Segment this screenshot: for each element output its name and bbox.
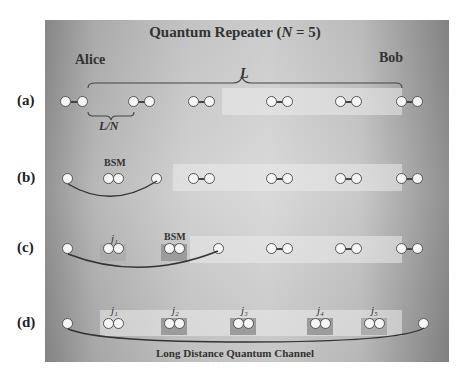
- connection-curves: [0, 0, 470, 383]
